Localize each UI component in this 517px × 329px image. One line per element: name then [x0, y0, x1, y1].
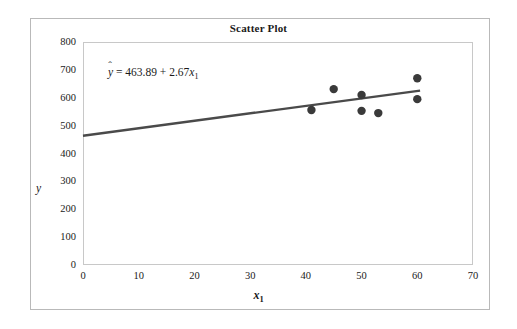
- y-tick-label: 700: [36, 65, 76, 75]
- regression-equation-annotation: y = 463.89 + 2.67x1: [108, 66, 198, 81]
- x-tick-label: 60: [397, 271, 437, 281]
- equation-x-subscript: 1: [194, 72, 198, 81]
- y-tick-label: 100: [36, 232, 76, 242]
- data-point: [413, 74, 421, 82]
- x-axis-label: x1: [0, 288, 517, 304]
- y-tick-label: 0: [36, 260, 76, 270]
- y-tick-label: 800: [36, 37, 76, 47]
- scatter-plot-figure: Scatter Plot 8007006005004003002001000 0…: [0, 0, 517, 329]
- y-tick-label: 300: [36, 176, 76, 186]
- data-points-group: [307, 74, 421, 117]
- chart-title: Scatter Plot: [0, 22, 517, 34]
- y-axis-label: y: [36, 182, 41, 194]
- equation-body: = 463.89 + 2.67: [113, 66, 189, 78]
- data-point: [330, 85, 338, 93]
- x-tick-label: 20: [174, 271, 214, 281]
- trendline-segment: [83, 91, 420, 136]
- y-tick-label: 600: [36, 93, 76, 103]
- x-tick-label: 50: [342, 271, 382, 281]
- trendline: [83, 91, 420, 136]
- x-axis-label-subscript: 1: [259, 294, 263, 304]
- x-tick-label: 0: [63, 271, 103, 281]
- data-point: [374, 109, 382, 117]
- equation-yhat: y: [108, 66, 113, 78]
- data-point: [413, 95, 421, 103]
- x-tick-label: 10: [119, 271, 159, 281]
- data-point: [357, 91, 365, 99]
- y-tick-label: 200: [36, 204, 76, 214]
- x-tick-label: 30: [230, 271, 270, 281]
- data-point: [307, 106, 315, 114]
- data-point: [357, 107, 365, 115]
- x-tick-label: 70: [453, 271, 493, 281]
- y-tick-label: 500: [36, 121, 76, 131]
- y-tick-label: 400: [36, 149, 76, 159]
- x-tick-label: 40: [286, 271, 326, 281]
